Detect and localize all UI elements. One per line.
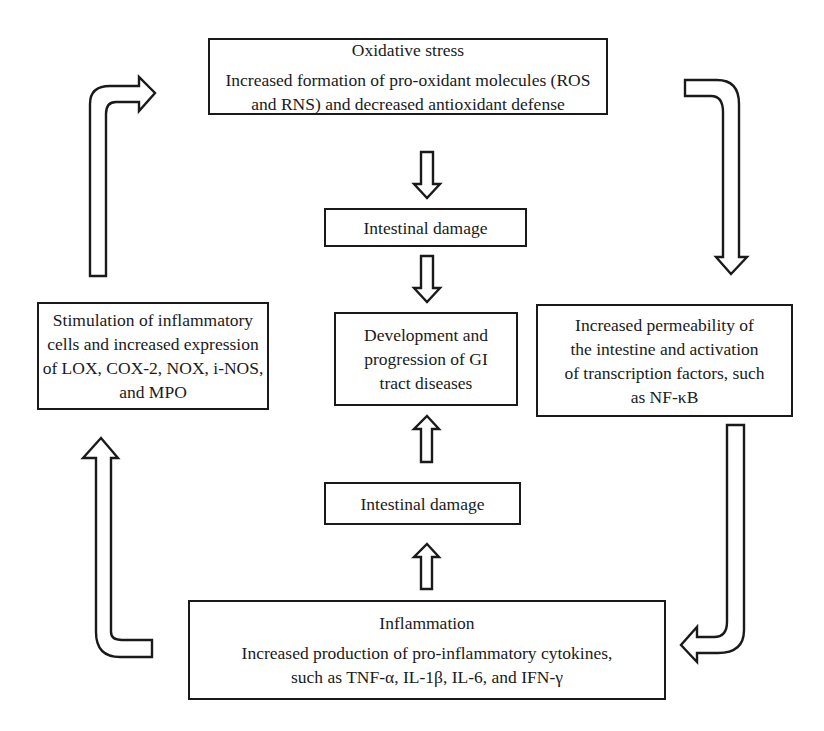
oxidative-stress-line-2: and RNS) and decreased antioxidant defen… [251,92,564,116]
down-arrow-icon [414,256,440,302]
inflammatory-cells-line-3: of LOX, COX-2, NOX, i-NOS, [43,356,264,380]
inflammation-title: Inflammation [379,611,474,635]
down-arrow-icon [414,152,440,198]
gi-disease-box: Development and progression of GI tract … [334,312,518,406]
permeability-box: Increased permeability of the intestine … [536,304,793,417]
intestinal-damage-bottom-label: Intestinal damage [361,492,485,516]
inflammation-line-1: Increased production of pro-inflammatory… [242,641,613,665]
bent-left-arrow-icon [681,425,744,662]
inflammatory-cells-line-2: cells and increased expression [47,332,258,356]
oxidative-stress-line-1: Increased formation of pro-oxidant molec… [226,68,591,92]
gi-disease-line-1: Development and [364,323,488,347]
up-arrow-icon [414,416,439,462]
permeability-line-3: of transcription factors, such [564,361,764,385]
permeability-line-1: Increased permeability of [575,313,754,337]
inflammation-box: Inflammation Increased production of pro… [188,600,666,700]
bent-down-arrow-icon [685,80,747,274]
oxidative-stress-title: Oxidative stress [352,38,464,62]
inflammatory-cells-box: Stimulation of inflammatory cells and in… [37,302,269,410]
gi-disease-line-2: progression of GI [364,347,487,371]
inflammation-line-2: such as TNF-α, IL-1β, IL-6, and IFN-γ [291,665,563,689]
up-arrow-icon [414,544,439,589]
intestinal-damage-top-label: Intestinal damage [364,216,488,240]
bent-right-arrow-icon [90,77,155,276]
intestinal-damage-top-box: Intestinal damage [324,208,527,247]
permeability-line-4: as NF-κB [631,385,699,409]
intestinal-damage-bottom-box: Intestinal damage [324,482,521,525]
gi-disease-line-3: tract diseases [380,371,473,395]
permeability-line-2: the intestine and activation [570,337,758,361]
oxidative-stress-box: Oxidative stress Increased formation of … [208,38,608,115]
inflammatory-cells-line-4: and MPO [119,380,187,404]
bent-up-arrow-icon [83,438,152,657]
inflammatory-cells-line-1: Stimulation of inflammatory [53,308,253,332]
